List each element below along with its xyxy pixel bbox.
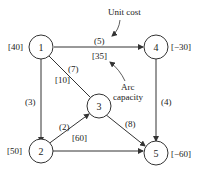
- arc-4-5-cost: (4): [161, 97, 172, 107]
- node-3: 3: [87, 94, 111, 118]
- node-2-label: 2: [39, 146, 44, 157]
- arc-capacity-annotation-line2: capacity: [113, 92, 143, 102]
- arc-capacity-annotation-line1: Arc: [121, 82, 135, 92]
- network-flow-diagram: 1 2 3 4 5 [40] [50] [−30] [−60] (5) [35]…: [0, 0, 198, 182]
- node-5: 5: [144, 141, 168, 165]
- arc-1-3-cost: (7): [68, 64, 79, 74]
- arc-1-3-capacity: [10]: [55, 75, 70, 85]
- node-4-supply: [−30]: [171, 42, 191, 52]
- node-5-label: 5: [154, 148, 159, 159]
- node-1: 1: [29, 35, 53, 59]
- node-2-supply: [50]: [7, 146, 22, 156]
- arc-capacity-pointer-icon: [110, 62, 125, 81]
- arc-2-3-capacity: [60]: [72, 133, 87, 143]
- node-4-label: 4: [154, 42, 159, 53]
- network-graph: 1 2 3 4 5 [40] [50] [−30] [−60] (5) [35]…: [0, 0, 198, 182]
- node-1-label: 1: [39, 42, 44, 53]
- node-3-label: 3: [97, 101, 102, 112]
- arc-3-5-cost: (8): [125, 119, 136, 129]
- arc-1-2-cost: (3): [25, 97, 36, 107]
- node-1-supply: [40]: [8, 42, 23, 52]
- node-5-supply: [−60]: [171, 149, 191, 159]
- unit-cost-pointer-icon: [112, 20, 120, 36]
- node-4: 4: [144, 35, 168, 59]
- arc-2-3-cost: (2): [59, 122, 70, 132]
- arc-1-4-cost: (5): [94, 36, 105, 46]
- arc-1-4-capacity: [35]: [92, 51, 107, 61]
- unit-cost-annotation: Unit cost: [108, 7, 141, 17]
- node-2: 2: [29, 139, 53, 163]
